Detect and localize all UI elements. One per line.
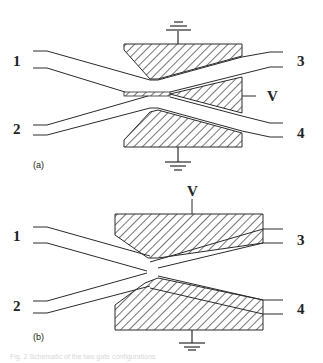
lead-2-upper-a	[33, 96, 148, 125]
ground-icon-top-a	[166, 22, 191, 44]
figure-caption: Fig. 2 Schematic of the two gate configu…	[10, 353, 310, 361]
panel-a: 1 3 2 4 V (a)	[13, 22, 305, 170]
lead-1-lower-b	[33, 243, 147, 271]
panel-label-b: (b)	[33, 332, 44, 342]
diagram-canvas: 1 3 2 4 V (a) V 1 3 2 4	[0, 0, 323, 363]
ground-icon-bottom-a	[165, 147, 191, 170]
terminal-4-label-b: 4	[297, 301, 305, 317]
terminal-3-label-a: 3	[297, 53, 305, 69]
center-bridge-strip-a	[124, 92, 170, 96]
terminal-1-label-b: 1	[13, 228, 21, 244]
panel-b: V 1 3 2 4 (b)	[13, 183, 305, 350]
panel-label-a: (a)	[33, 160, 44, 170]
voltage-label-a: V	[267, 88, 278, 104]
middle-gate-electrode-a	[170, 77, 242, 113]
terminal-1-label-a: 1	[13, 53, 21, 69]
voltage-label-b: V	[187, 183, 198, 199]
lower-gate-electrode-b	[115, 278, 263, 330]
terminal-2-label-a: 2	[13, 121, 21, 137]
lead-1-lower-a	[33, 68, 125, 92]
terminal-2-label-b: 2	[13, 298, 21, 314]
lower-gate-electrode-a	[124, 110, 242, 147]
terminal-3-label-b: 3	[297, 232, 305, 248]
terminal-4-label-a: 4	[297, 125, 305, 141]
ground-icon-bottom-b	[179, 330, 205, 350]
